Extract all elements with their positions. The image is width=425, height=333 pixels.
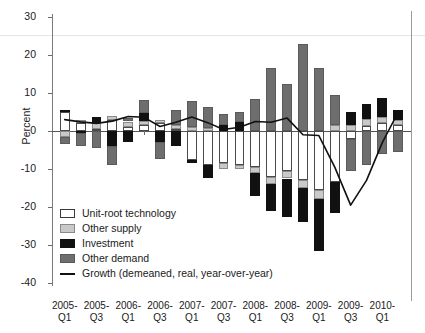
bar-series-container xyxy=(52,0,411,333)
plot-frame: Percent 3020100-10-20-30-40 Unit-root te… xyxy=(0,0,425,333)
bar-segment xyxy=(250,131,260,167)
legend-swatch-unit xyxy=(60,209,75,218)
bar-segment xyxy=(219,163,229,169)
y-tick-label: -30 xyxy=(21,239,36,249)
bar-segment xyxy=(155,131,165,142)
bar-segment xyxy=(139,121,149,126)
bar-segment xyxy=(377,117,387,124)
chart-root: Percent 3020100-10-20-30-40 Unit-root te… xyxy=(0,0,425,333)
bar-segment xyxy=(282,171,292,179)
bar-segment xyxy=(187,101,197,128)
right-border-line xyxy=(411,11,412,301)
bar-group xyxy=(155,0,165,333)
bar-segment xyxy=(346,131,356,139)
bar-segment xyxy=(76,120,86,124)
bar-group xyxy=(203,0,213,333)
bar-segment xyxy=(92,117,102,123)
bar-segment xyxy=(235,165,245,169)
bar-segment xyxy=(362,119,372,127)
y-tick-label: -10 xyxy=(21,163,36,173)
bar-segment xyxy=(314,190,324,200)
bar-segment xyxy=(76,133,86,146)
bar-segment xyxy=(155,120,165,123)
y-tick-label: 20 xyxy=(24,49,36,59)
legend-label: Other demand xyxy=(82,253,149,264)
bar-segment xyxy=(203,131,213,165)
bar-group xyxy=(346,0,356,333)
bar-group xyxy=(219,0,229,333)
bar-segment xyxy=(346,125,356,131)
bar-segment xyxy=(330,95,340,125)
bar-segment xyxy=(362,131,372,165)
legend-item: Other demand xyxy=(60,251,310,266)
bar-segment xyxy=(314,131,324,190)
bar-segment xyxy=(155,123,165,131)
bar-segment xyxy=(139,100,149,113)
bar-segment xyxy=(187,160,197,164)
bar-segment xyxy=(235,112,245,122)
legend-swatch-invest xyxy=(60,239,75,248)
bar-segment xyxy=(60,110,70,112)
bar-segment xyxy=(314,199,324,250)
bar-group xyxy=(171,0,181,333)
bar-group xyxy=(298,0,308,333)
bar-segment xyxy=(393,131,403,152)
legend-label: Growth (demeaned, real, year-over-year) xyxy=(82,268,273,279)
legend-swatch-demand xyxy=(60,254,75,263)
bar-segment xyxy=(123,131,133,142)
legend-label: Other supply xyxy=(82,223,142,234)
bar-segment xyxy=(346,139,356,171)
bar-segment xyxy=(203,128,213,131)
bar-group xyxy=(60,0,70,333)
bar-segment xyxy=(187,131,197,160)
x-axis-label: 2010-Q1 xyxy=(362,300,402,323)
x-axis-label-quarter: Q1 xyxy=(362,312,402,324)
bar-segment xyxy=(393,110,403,120)
bar-group xyxy=(266,0,276,333)
bar-segment xyxy=(362,104,372,119)
bar-segment xyxy=(298,180,308,188)
bar-segment xyxy=(155,142,165,159)
x-axis-label-year: 2010- xyxy=(362,300,402,312)
bar-segment xyxy=(298,131,308,180)
y-tick-label: -40 xyxy=(21,277,36,287)
bar-segment xyxy=(377,98,387,117)
bar-segment xyxy=(107,146,117,165)
bar-segment xyxy=(298,44,308,131)
bar-segment xyxy=(107,120,117,131)
legend-swatch-supply xyxy=(60,224,75,233)
bar-segment xyxy=(123,118,133,122)
legend-item: Growth (demeaned, real, year-over-year) xyxy=(60,266,310,281)
bar-segment xyxy=(92,131,102,148)
bar-segment xyxy=(171,131,181,146)
bar-segment xyxy=(92,123,102,129)
y-tick-label: 0 xyxy=(30,125,36,135)
bar-segment xyxy=(235,131,245,165)
bar-group xyxy=(393,0,403,333)
bar-segment xyxy=(60,137,70,145)
legend-label: Investment xyxy=(82,238,133,249)
legend-item: Unit-root technology xyxy=(60,206,310,221)
legend-item: Other supply xyxy=(60,221,310,236)
bar-segment xyxy=(171,125,181,129)
y-tick-label: 10 xyxy=(24,87,36,97)
bar-segment xyxy=(266,177,276,185)
bar-segment xyxy=(266,68,276,131)
bar-segment xyxy=(76,123,86,131)
x-axis-labels: 2005-Q12005-Q32006-Q12006-Q32007-Q12007-… xyxy=(52,300,411,330)
bar-segment xyxy=(282,131,292,171)
bar-segment xyxy=(107,116,117,120)
bar-group xyxy=(377,0,387,333)
bar-segment xyxy=(219,114,229,125)
bar-group xyxy=(92,0,102,333)
bar-segment xyxy=(314,68,324,131)
bar-segment xyxy=(219,131,229,163)
bar-group xyxy=(362,0,372,333)
bar-segment xyxy=(235,122,245,132)
bar-segment xyxy=(377,131,387,154)
bar-segment xyxy=(393,120,403,126)
bar-segment xyxy=(60,112,70,131)
bar-segment xyxy=(203,107,213,128)
bar-segment xyxy=(250,99,260,131)
bar-segment xyxy=(203,165,213,178)
